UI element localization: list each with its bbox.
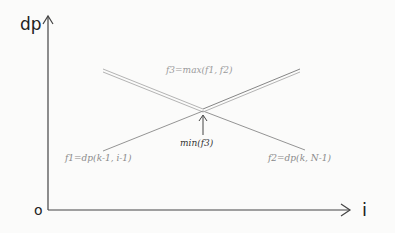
x-axis-label: i bbox=[362, 199, 367, 220]
origin-label: o bbox=[34, 202, 43, 218]
f3-label: f3=max(f1, f2) bbox=[166, 65, 232, 75]
min-f3-label: min(f3) bbox=[180, 138, 213, 148]
f1-label: f1=dp(k-1, i-1) bbox=[65, 153, 132, 163]
diagram-canvas bbox=[0, 0, 395, 233]
f2-label: f2=dp(k, N-1) bbox=[268, 153, 331, 163]
y-axis-label: dp bbox=[20, 14, 42, 34]
